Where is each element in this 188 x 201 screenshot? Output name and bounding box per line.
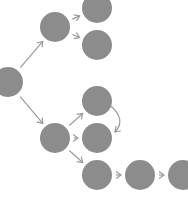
edge-F-G (110, 105, 120, 132)
node-C (82, 0, 112, 23)
node-A (0, 67, 23, 97)
node-I (125, 160, 155, 190)
node-H (82, 160, 112, 190)
node-F (82, 86, 112, 116)
edge-E-H (69, 151, 82, 163)
edge-A-B (20, 41, 42, 67)
node-E (40, 123, 70, 153)
edge-E-F (69, 114, 82, 126)
node-D (82, 30, 112, 60)
node-B (40, 12, 70, 42)
node-J (168, 160, 188, 190)
node-G (82, 123, 112, 153)
nodes-layer (0, 0, 188, 190)
edge-A-E (20, 97, 43, 124)
tree-diagram (0, 0, 188, 201)
